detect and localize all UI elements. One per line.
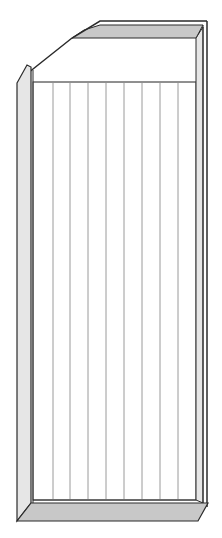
right-wall — [196, 27, 203, 503]
back-panel — [33, 82, 196, 500]
top-band — [72, 25, 203, 38]
bottom-band — [17, 503, 208, 521]
box-frame-diagram — [0, 0, 222, 538]
left-wall — [17, 65, 31, 521]
box-frame-drawing — [0, 0, 222, 538]
